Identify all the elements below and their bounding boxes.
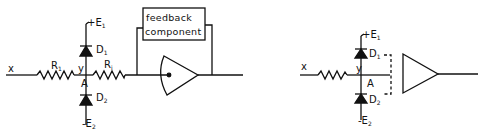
circuit-diagram: x R1 y A Ri +E1 D1 D2 -E2 feedback compo… bbox=[0, 0, 478, 131]
right-resistor bbox=[318, 71, 347, 79]
right-circuit bbox=[300, 34, 478, 120]
right-amplifier bbox=[403, 54, 438, 93]
right-d1-label: D1 bbox=[369, 48, 381, 60]
left-ri-label: Ri bbox=[104, 59, 113, 71]
left-resistor-ri bbox=[93, 71, 125, 79]
right-diode-d2 bbox=[355, 94, 367, 103]
left-input-label: x bbox=[8, 63, 14, 74]
left-junction-label: y bbox=[78, 63, 84, 74]
left-feedback-wire-in bbox=[137, 28, 143, 75]
right-diode-d1 bbox=[355, 49, 367, 58]
right-e2-label: -E2 bbox=[358, 115, 372, 127]
left-diode-d1 bbox=[80, 46, 92, 56]
left-feedback-wire-out bbox=[205, 25, 212, 75]
left-e2-label: -E2 bbox=[82, 118, 96, 130]
right-junction-label: y bbox=[356, 63, 362, 74]
feedback-box-line1: feedback bbox=[146, 12, 192, 23]
left-d1-label: D1 bbox=[96, 44, 108, 56]
left-circuit bbox=[6, 8, 243, 125]
left-r1-label: R1 bbox=[51, 60, 62, 72]
left-resistor-r1 bbox=[37, 71, 74, 79]
left-diode-d2 bbox=[80, 95, 92, 105]
right-node-label: A bbox=[367, 78, 374, 89]
right-input-label: x bbox=[301, 61, 307, 72]
left-amp-input-dot bbox=[167, 73, 171, 77]
right-d2-label: D2 bbox=[369, 94, 381, 106]
left-d2-label: D2 bbox=[96, 92, 108, 104]
left-node-label: A bbox=[81, 78, 88, 89]
feedback-box-line2: component bbox=[145, 26, 201, 37]
left-e1-label: +E1 bbox=[87, 17, 106, 29]
right-e1-label: +E1 bbox=[362, 29, 381, 41]
